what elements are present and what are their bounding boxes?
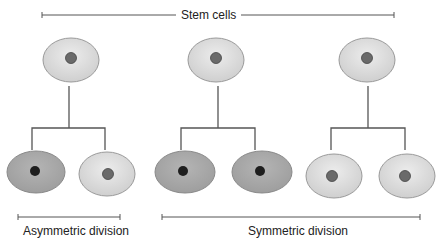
asymmetric-division-label: Asymmetric division	[23, 224, 129, 238]
symmetric-division-label: Symmetric division	[248, 224, 348, 238]
daughter-stem-cell-2	[306, 154, 362, 198]
stem-cells-label: Stem cells	[176, 8, 241, 22]
daughter-stem-cell-3	[379, 154, 435, 198]
daughter-stem-cell-1	[79, 152, 135, 196]
daughter-differentiated-cell-2	[155, 151, 215, 193]
stem-cell-division-diagram	[0, 0, 441, 239]
parent-stem-cell-1	[43, 38, 99, 82]
parent-stem-cell-2	[188, 38, 244, 82]
parent-stem-cell-3	[339, 38, 395, 82]
asymmetric-division-bracket	[18, 214, 120, 220]
daughter-differentiated-cell-3	[232, 151, 292, 193]
daughter-differentiated-cell-1	[7, 151, 65, 193]
symmetric-division-bracket	[162, 214, 420, 220]
lineage-lines	[32, 86, 405, 150]
